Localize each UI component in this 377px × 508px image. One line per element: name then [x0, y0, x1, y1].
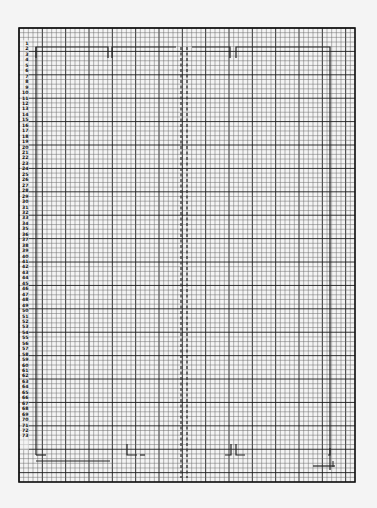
row-number-label: 7 [25, 74, 28, 79]
row-number-label: 61 [22, 368, 28, 373]
row-number-label: 34 [22, 221, 28, 226]
row-number-label: 8 [25, 79, 28, 84]
row-number-label: 60 [22, 363, 28, 368]
row-number-label: 20 [22, 145, 28, 150]
row-number-label: 18 [22, 134, 28, 139]
row-number-label: 29 [22, 194, 28, 199]
row-number-label: 53 [22, 324, 28, 329]
row-number-label: 10 [22, 90, 28, 95]
row-number-label: 37 [22, 237, 28, 242]
row-number-label: 39 [22, 248, 28, 253]
row-number-label: 54 [22, 330, 28, 335]
row-number-label: 70 [22, 417, 28, 422]
row-number-label: 31 [22, 205, 28, 210]
row-number-label: 42 [22, 264, 28, 269]
row-number-label: 3 [25, 52, 28, 57]
row-number-label: 12 [22, 101, 28, 106]
row-number-label: 46 [22, 286, 28, 291]
row-number-label: 49 [22, 303, 28, 308]
row-number-label: 48 [22, 297, 28, 302]
row-number-label: 22 [22, 155, 28, 160]
row-number-label: 62 [22, 373, 28, 378]
row-number-label: 6 [25, 68, 28, 73]
row-number-label: 69 [22, 412, 28, 417]
row-number-label: 26 [22, 177, 28, 182]
row-number-label: 45 [22, 281, 28, 286]
row-number-label: 67 [22, 401, 28, 406]
row-number-label: 4 [25, 57, 28, 62]
row-number-label: 38 [22, 243, 28, 248]
row-number-label: 15 [22, 117, 28, 122]
row-number-label: 71 [22, 423, 28, 428]
row-number-label: 5 [25, 63, 28, 68]
row-number-label: 14 [22, 112, 28, 117]
row-number-label: 63 [22, 379, 28, 384]
row-number-label: 11 [22, 96, 28, 101]
row-number-label: 72 [22, 428, 28, 433]
row-number-label: 28 [22, 188, 28, 193]
row-number-label: 23 [22, 161, 28, 166]
row-number-label: 41 [22, 259, 28, 264]
row-number-label: 73 [22, 433, 28, 438]
row-number-label: 30 [22, 199, 28, 204]
row-number-label: 36 [22, 232, 28, 237]
row-number-label: 43 [22, 270, 28, 275]
row-number-label: 57 [22, 346, 28, 351]
row-number-label: 25 [22, 172, 28, 177]
row-number-label: 44 [22, 275, 28, 280]
row-number-label: 35 [22, 226, 28, 231]
row-number-label: 19 [22, 139, 28, 144]
row-number-label: 52 [22, 319, 28, 324]
row-number-label: 58 [22, 352, 28, 357]
knitting-chart: 1234567891011121314151617181920212223242… [0, 0, 377, 508]
row-number-label: 32 [22, 210, 28, 215]
row-number-label: 68 [22, 406, 28, 411]
row-number-label: 17 [22, 128, 28, 133]
row-number-label: 33 [22, 215, 28, 220]
row-number-label: 9 [25, 85, 28, 90]
row-number-label: 21 [22, 150, 28, 155]
row-number-label: 64 [22, 384, 28, 389]
row-number-labels: 1234567891011121314151617181920212223242… [20, 40, 29, 450]
row-number-label: 47 [22, 292, 28, 297]
row-number-label: 16 [22, 123, 28, 128]
row-number-label: 65 [22, 390, 28, 395]
row-number-label: 66 [22, 395, 28, 400]
row-number-label: 1 [25, 41, 28, 46]
row-number-label: 24 [22, 166, 28, 171]
row-number-label: 2 [25, 46, 28, 51]
row-number-label: 59 [22, 357, 28, 362]
row-number-label: 55 [22, 335, 28, 340]
row-number-label: 50 [22, 308, 28, 313]
row-number-label: 56 [22, 341, 28, 346]
row-number-label: 13 [22, 106, 28, 111]
row-number-label: 27 [22, 183, 28, 188]
row-number-label: 40 [22, 254, 28, 259]
row-number-label: 51 [22, 314, 28, 319]
